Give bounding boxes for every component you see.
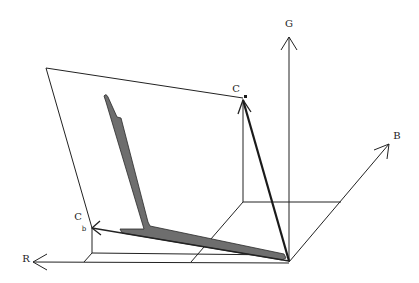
axis-b-label: B — [393, 130, 400, 141]
axis-r: R — [22, 253, 289, 270]
axis-g: G — [281, 18, 297, 262]
axes: G B R — [22, 18, 400, 270]
ca-r-projection-line — [191, 202, 243, 262]
diagram-canvas: G B R C C b — [0, 0, 419, 283]
vector-cb-label: C — [74, 211, 82, 222]
vector-ca-line — [243, 100, 289, 261]
vector-ca: C — [232, 83, 289, 261]
plane-outline — [46, 68, 243, 228]
axis-r-label: R — [22, 253, 30, 264]
axis-b-line — [289, 144, 389, 262]
cb-r-projection-line — [84, 253, 92, 262]
axis-g-label: G — [285, 18, 293, 29]
vector-cb-line — [92, 228, 289, 261]
axis-b: B — [289, 130, 401, 262]
vector-cb-subscript: b — [82, 225, 87, 233]
vector-ca-label: C — [232, 83, 240, 94]
vector-ca-subscript-mark — [244, 95, 247, 98]
axis-r-line — [33, 262, 289, 263]
